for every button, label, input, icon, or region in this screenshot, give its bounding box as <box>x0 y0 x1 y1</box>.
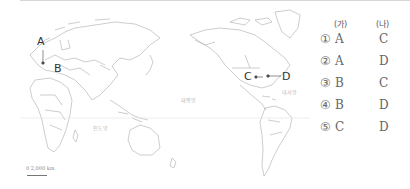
marker-b-label: B <box>54 63 62 74</box>
choice-number: ③ <box>320 76 331 90</box>
scale-bar <box>27 175 47 176</box>
choice-ga: B <box>335 98 344 112</box>
map-outline-icon <box>0 0 310 189</box>
choice-na: C <box>379 76 388 90</box>
world-map: A B C D 태평양 대서양 인도양 0 2,000 km <box>0 0 310 189</box>
choice-ga: B <box>335 76 344 90</box>
choice-row-1[interactable]: ① A C <box>318 32 410 54</box>
header-ga: (가) <box>334 18 347 29</box>
marker-c-label: C <box>244 71 252 82</box>
choice-na: D <box>379 120 389 134</box>
choice-na: D <box>379 54 389 68</box>
choice-na: D <box>379 98 389 112</box>
header-na: (나) <box>376 18 389 29</box>
indian-ocean-label: 인도양 <box>93 124 108 131</box>
choice-row-2[interactable]: ② A D <box>318 54 410 76</box>
answer-choices: (가) (나) ① A C ② A D ③ B C ④ B D ⑤ C D <box>318 14 410 142</box>
atlantic-ocean-label: 대서양 <box>282 88 297 95</box>
choice-row-4[interactable]: ④ B D <box>318 98 410 120</box>
marker-a-label: A <box>37 36 45 47</box>
choice-ga: A <box>335 32 344 46</box>
marker-d-label: D <box>282 71 290 82</box>
choices-header: (가) (나) <box>318 14 410 32</box>
choice-number: ⑤ <box>320 120 331 134</box>
choice-ga: A <box>335 54 344 68</box>
choice-number: ④ <box>320 98 331 112</box>
choice-row-5[interactable]: ⑤ C D <box>318 120 410 142</box>
scale-label: 0 2,000 km <box>26 165 54 171</box>
pacific-ocean-label: 태평양 <box>181 96 196 103</box>
choice-ga: C <box>335 120 344 134</box>
choice-row-3[interactable]: ③ B C <box>318 76 410 98</box>
choice-number: ② <box>320 54 331 68</box>
choice-number: ① <box>320 32 331 46</box>
choice-na: C <box>379 32 388 46</box>
